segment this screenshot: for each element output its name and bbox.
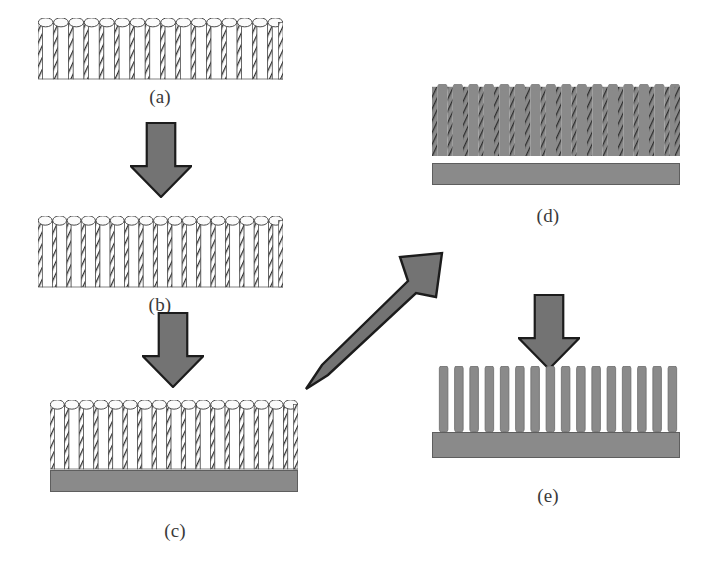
panel-c-label: (c) — [145, 520, 205, 542]
panel-e — [436, 366, 680, 432]
panel-a-label: (a) — [130, 86, 190, 108]
panel-d — [432, 84, 680, 156]
panel-e-label: (e) — [518, 485, 578, 507]
arrow-down-a-to-b — [130, 122, 192, 198]
substrate-bar-e — [432, 432, 680, 458]
arrow-down-b-to-c — [142, 312, 204, 388]
substrate-bar-d — [432, 163, 680, 185]
panel-a — [38, 18, 283, 80]
panel-b — [38, 216, 283, 288]
figure-canvas: (a) (b) (c) (d) (e) — [0, 0, 712, 573]
panel-d-label: (d) — [518, 205, 578, 227]
arrow-diagonal-c-to-d — [300, 243, 452, 395]
substrate-bar-c — [50, 470, 298, 492]
arrow-down-d-to-e — [518, 294, 580, 370]
panel-c — [50, 400, 298, 470]
